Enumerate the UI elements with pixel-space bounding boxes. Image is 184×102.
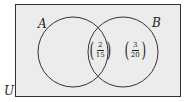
denominator: 20 — [131, 51, 140, 59]
numerator: 3 — [132, 42, 138, 51]
right-paren: ) — [141, 40, 146, 60]
numerator: 2 — [97, 42, 103, 51]
fraction: 2 15 — [96, 42, 105, 59]
left-paren: ( — [90, 40, 95, 60]
denominator: 15 — [96, 51, 105, 59]
left-paren: ( — [125, 40, 130, 60]
set-a-label: A — [38, 17, 47, 31]
intersection-probability: ( 2 15 ) — [88, 40, 113, 60]
fraction: 3 20 — [131, 42, 140, 59]
b-only-probability: ( 3 20 ) — [123, 40, 148, 60]
right-paren: ) — [106, 40, 111, 60]
universe-label: U — [4, 84, 14, 98]
set-b-label: B — [152, 16, 161, 30]
